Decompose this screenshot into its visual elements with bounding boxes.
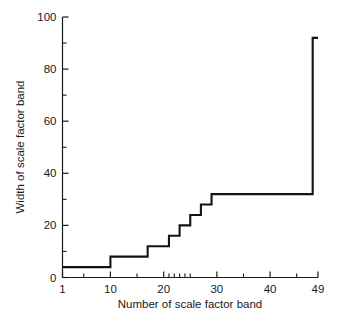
- axes: [63, 17, 319, 278]
- x-tick-label: 49: [312, 283, 325, 295]
- step-chart: 020406080100 11020304049 Number of scale…: [0, 0, 342, 329]
- x-tick-label: 20: [157, 283, 170, 295]
- x-tick-label: 30: [210, 283, 223, 295]
- y-tick-label: 0: [50, 272, 56, 284]
- y-tick-label: 80: [44, 63, 57, 75]
- x-axis-tick-labels: 11020304049: [59, 283, 324, 295]
- x-tick-label: 1: [59, 283, 65, 295]
- y-tick-label: 100: [37, 11, 56, 23]
- y-tick-label: 60: [44, 115, 57, 127]
- x-tick-label: 10: [104, 283, 117, 295]
- data-series-step-line: [63, 38, 319, 267]
- x-tick-label: 40: [264, 283, 277, 295]
- x-axis-title: Number of scale factor band: [118, 298, 262, 310]
- caption-fragment: [0, 316, 342, 329]
- y-axis-title: Width of scale factor band: [14, 81, 26, 214]
- figure-container: 020406080100 11020304049 Number of scale…: [0, 0, 342, 329]
- y-axis-tick-labels: 020406080100: [37, 11, 56, 284]
- y-tick-label: 40: [44, 167, 57, 179]
- y-tick-label: 20: [44, 219, 57, 231]
